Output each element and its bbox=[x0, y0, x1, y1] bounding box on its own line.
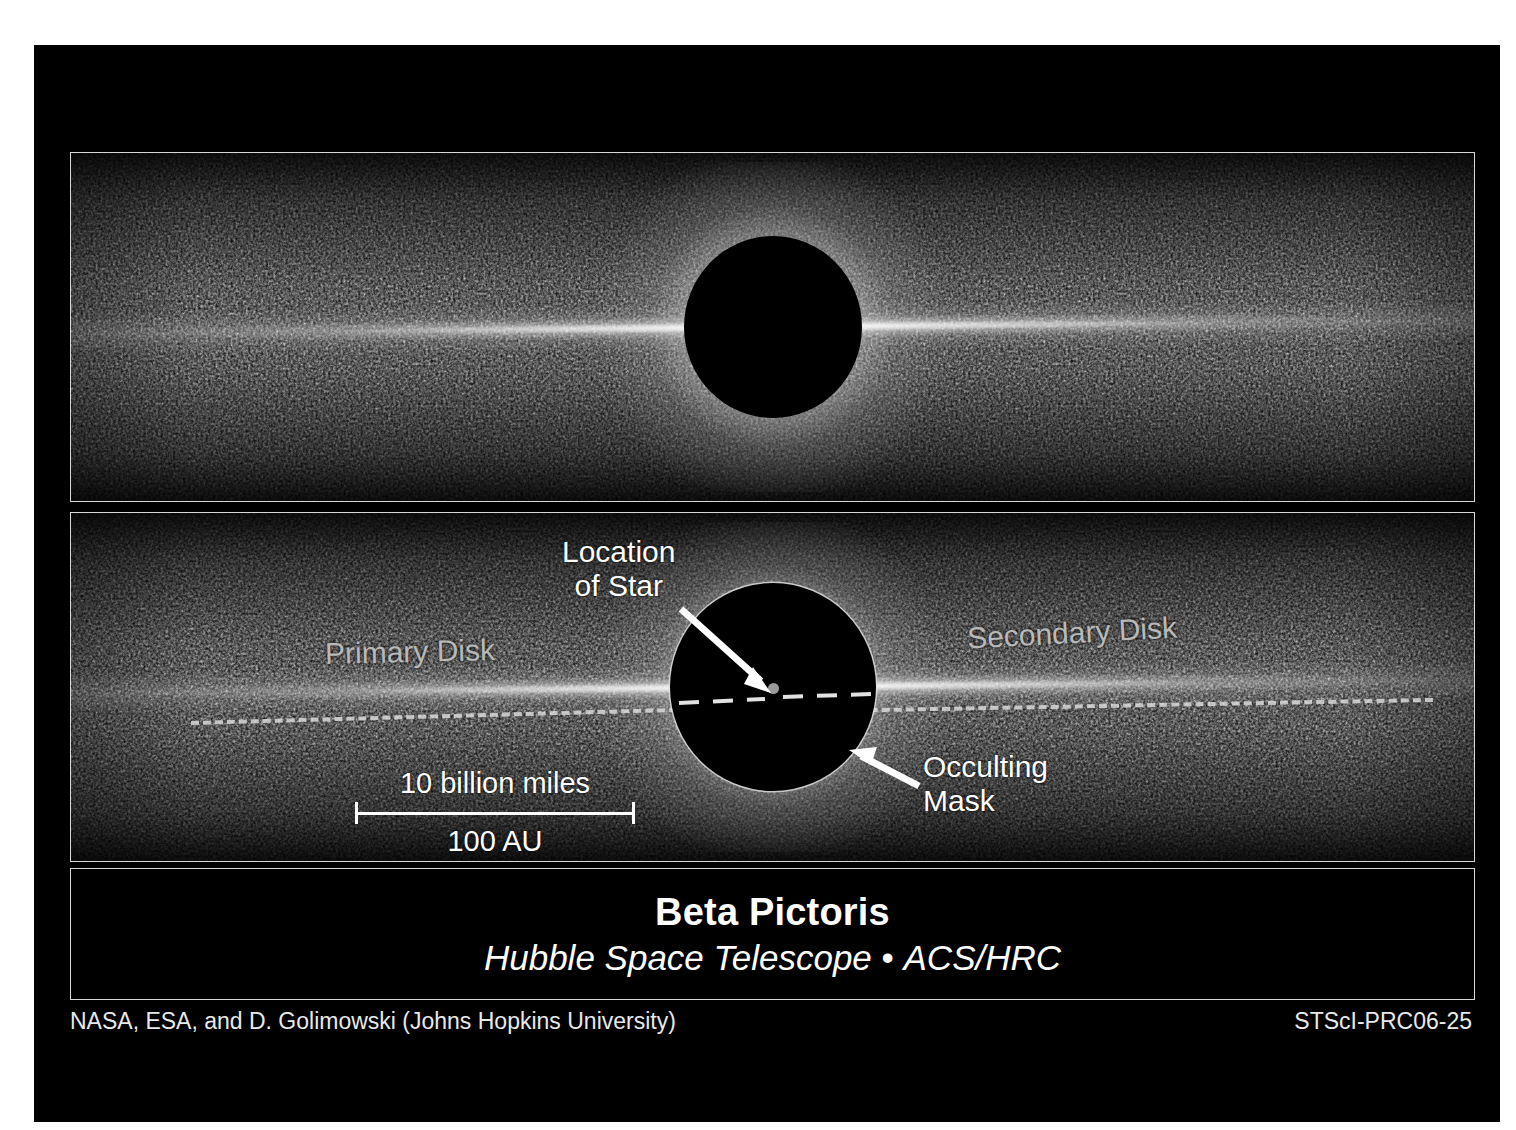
star-location-dot bbox=[768, 683, 779, 694]
title-instrument: ACS/HRC bbox=[904, 938, 1062, 977]
scale-bar-line bbox=[355, 812, 635, 815]
page-title: Beta Pictoris bbox=[655, 891, 890, 934]
title-box: Beta Pictoris Hubble Space Telescope • A… bbox=[70, 868, 1475, 1000]
scale-bar-tick-right bbox=[632, 802, 635, 824]
title-subtitle: Hubble Space Telescope • ACS/HRC bbox=[484, 938, 1061, 978]
panel-top-inner bbox=[71, 153, 1474, 501]
scale-bar: 10 billion miles 100 AU bbox=[355, 767, 635, 858]
release-id: STScI-PRC06-25 bbox=[1294, 1008, 1472, 1035]
occulting-mask-bottom bbox=[670, 583, 876, 791]
title-telescope: Hubble Space Telescope bbox=[484, 938, 872, 977]
image-panel-bottom: Location of Star Occulting Mask Primary … bbox=[70, 512, 1475, 862]
credit-line: NASA, ESA, and D. Golimowski (Johns Hopk… bbox=[70, 1008, 676, 1035]
image-panel-top bbox=[70, 152, 1475, 502]
annotation-occulting-mask: Occulting Mask bbox=[923, 750, 1048, 817]
scale-bar-tick-left bbox=[355, 802, 358, 824]
annotation-primary-disk: Primary Disk bbox=[325, 633, 496, 671]
poster-canvas: Location of Star Occulting Mask Primary … bbox=[34, 45, 1500, 1122]
scale-bar-graphic bbox=[355, 802, 635, 824]
scale-bar-bottom-label: 100 AU bbox=[355, 825, 635, 858]
occulting-mask-top bbox=[684, 236, 862, 418]
annotation-location-of-star: Location of Star bbox=[562, 535, 675, 602]
title-separator: • bbox=[872, 938, 904, 977]
panel-bottom-inner: Location of Star Occulting Mask Primary … bbox=[71, 513, 1474, 861]
scale-bar-top-label: 10 billion miles bbox=[355, 767, 635, 800]
